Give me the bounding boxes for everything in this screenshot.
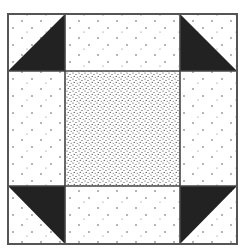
center-stipple	[65, 71, 180, 186]
quilt-block-diagram	[0, 0, 244, 252]
